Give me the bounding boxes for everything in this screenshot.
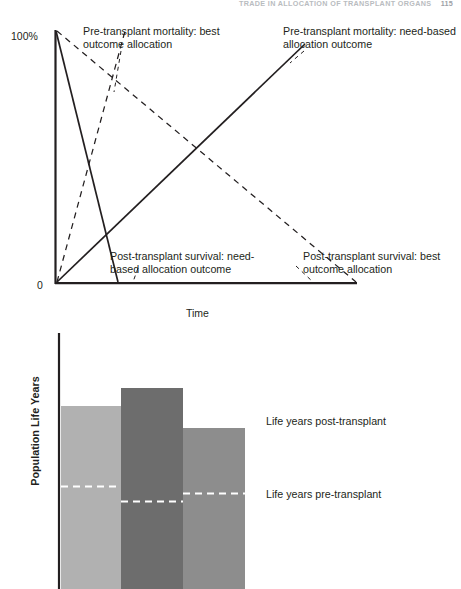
series-post-transplant-survival-need-based (57, 44, 305, 282)
series-pre-transplant-mortality-best-outcome (56, 31, 118, 282)
bar-scenario-1 (61, 406, 121, 589)
legend-life-years-post-transplant: Life years post-transplant (266, 415, 386, 428)
legend-life-years-pre-transplant: Life years pre-transplant (266, 488, 386, 501)
y-axis-tick-100: 100% (11, 30, 38, 42)
annotation-pre-transplant-mortality-best-outcome: Pre-transplant mortality: best outcome a… (83, 25, 243, 50)
line-chart-figure: 100% 0 Time Pre-transplant mortality: be… (0, 18, 461, 323)
bar-scenario-2 (121, 388, 183, 589)
series-pre-transplant-mortality-need-based (57, 31, 356, 282)
running-head: Trade in Allocation of Transplant Organs… (239, 0, 453, 8)
bar-chart-figure: Population Life Years Life years post-tr… (0, 330, 461, 589)
figure-page: Trade in Allocation of Transplant Organs… (0, 0, 461, 589)
line-chart-svg (0, 18, 461, 323)
annotation-post-transplant-survival-need-based: Post-transplant survival: need-based all… (110, 250, 265, 275)
running-head-title: Trade in Allocation of Transplant Organs (239, 0, 431, 8)
bar-chart-svg (0, 330, 461, 589)
annotation-pre-transplant-mortality-need-based: Pre-transplant mortality: need-based all… (283, 25, 458, 50)
bar-scenario-3 (183, 428, 245, 589)
series-post-transplant-survival-best-outcome (57, 31, 125, 282)
bar-chart-y-axis-label: Population Life Years (29, 366, 41, 496)
x-axis-title: Time (186, 307, 209, 319)
page-folio: 115 (441, 0, 453, 8)
annotation-post-transplant-survival-best-outcome: Post-transplant survival: best outcome a… (303, 250, 453, 275)
y-axis-tick-0: 0 (37, 279, 43, 291)
